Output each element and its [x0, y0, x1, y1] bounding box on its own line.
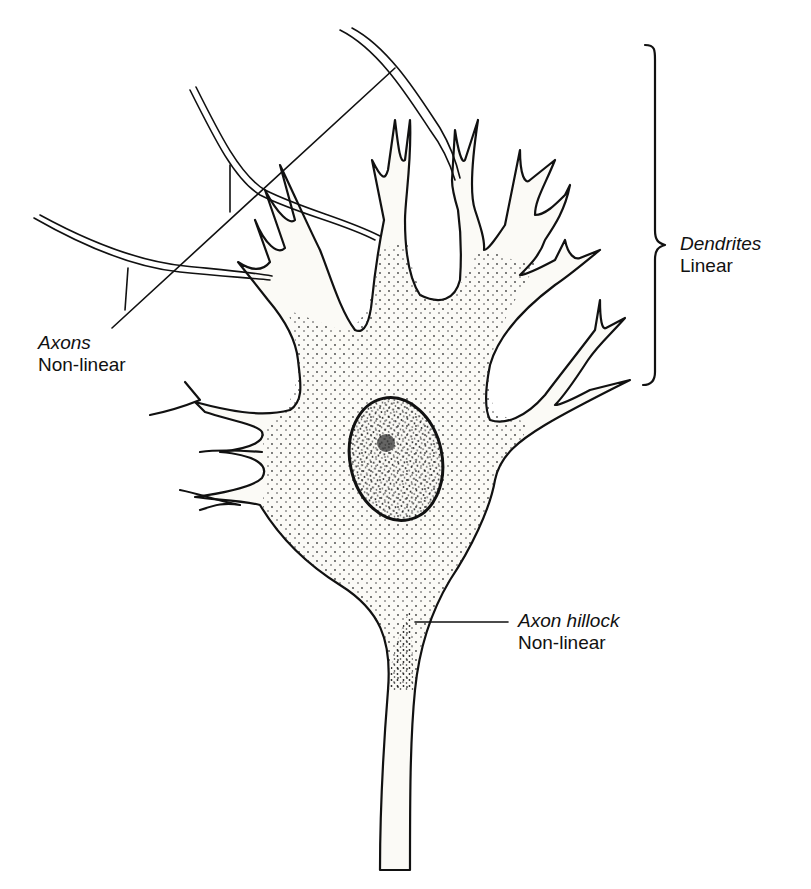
dendrites-bracket: [643, 45, 665, 385]
nucleolus: [377, 434, 395, 452]
axons-pointer: [112, 68, 395, 328]
axon-hillock-label: Axon hillock Non-linear: [518, 610, 619, 654]
dendrites-label: Dendrites Linear: [680, 233, 761, 277]
axons-label-property: Non-linear: [38, 354, 126, 376]
axon-hillock-label-property: Non-linear: [518, 632, 619, 654]
neuron-diagram: Axons Non-linear Dendrites Linear Axon h…: [0, 0, 811, 889]
neuron-drawing: [0, 0, 811, 889]
axons-label: Axons Non-linear: [38, 332, 126, 376]
dendrites-label-property: Linear: [680, 255, 761, 277]
axons-label-name: Axons: [38, 332, 126, 354]
axon-hillock-label-name: Axon hillock: [518, 610, 619, 632]
dendrites-label-name: Dendrites: [680, 233, 761, 255]
